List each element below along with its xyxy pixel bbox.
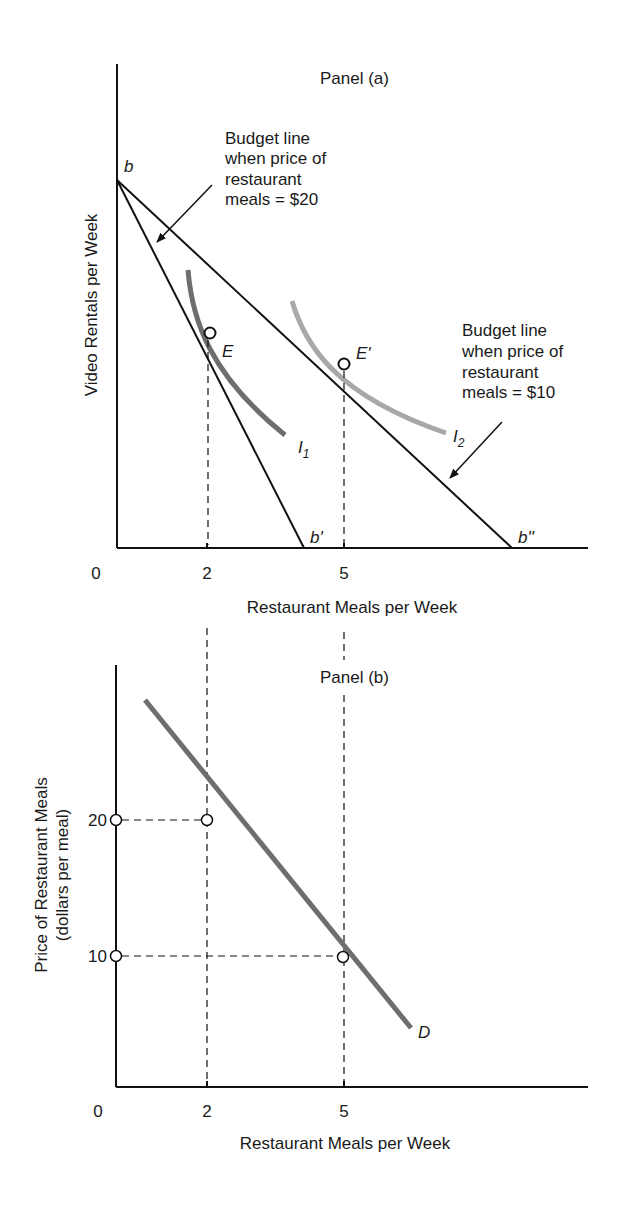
label-e-prime: E' xyxy=(356,344,371,363)
panel-a-y-axis-label: Video Rentals per Week xyxy=(82,213,101,396)
svg-text:meals = $10: meals = $10 xyxy=(462,383,555,402)
svg-text:Budget line: Budget line xyxy=(462,321,547,340)
point-demand-2-20 xyxy=(202,815,213,826)
label-d: D xyxy=(418,1023,430,1042)
svg-text:when price of: when price of xyxy=(224,149,326,168)
panel-b-y-axis-label-line2: (dollars per meal) xyxy=(53,809,72,941)
panel-b-x-axis-label: Restaurant Meals per Week xyxy=(240,1134,451,1153)
svg-text:Budget line: Budget line xyxy=(225,129,310,148)
panel-b: Panel (b) Price of Restaurant Meals (dol… xyxy=(32,628,588,1153)
svg-text:restaurant: restaurant xyxy=(462,363,539,382)
budget-line-10 xyxy=(117,180,512,548)
point-e xyxy=(205,328,216,339)
label-b: b xyxy=(124,157,133,176)
panel-a-x-tick-5-label: 5 xyxy=(339,564,348,583)
indifference-curve-i2 xyxy=(292,301,446,433)
panel-a: Panel (a) Video Rentals per Week 0 2 5 R… xyxy=(82,64,588,617)
arrow-icon xyxy=(450,422,502,478)
panel-b-origin-label: 0 xyxy=(93,1102,102,1121)
panel-a-x-tick-2-label: 2 xyxy=(202,564,211,583)
panel-a-origin-label: 0 xyxy=(91,564,100,583)
indifference-curve-i1 xyxy=(188,270,285,435)
point-e-prime xyxy=(339,359,350,370)
panel-b-title: Panel (b) xyxy=(320,668,389,687)
panel-b-y-tick-20-label: 20 xyxy=(88,811,107,830)
annotation-budget-10: Budget line when price of restaurant mea… xyxy=(450,321,563,478)
panel-b-y-axis-label-line1: Price of Restaurant Meals xyxy=(32,777,51,973)
label-e: E xyxy=(222,342,234,361)
point-demand-5-10 xyxy=(338,952,349,963)
arrow-icon xyxy=(157,185,212,242)
point-axis-10 xyxy=(111,951,122,962)
panel-b-y-tick-10-label: 10 xyxy=(88,947,107,966)
label-b-prime: b' xyxy=(310,528,323,547)
svg-text:restaurant: restaurant xyxy=(225,170,302,189)
demand-curve xyxy=(145,700,411,1028)
budget-line-20 xyxy=(117,180,304,548)
label-i1: I1 xyxy=(298,438,309,461)
svg-text:when price of: when price of xyxy=(461,342,563,361)
panel-a-x-axis-label: Restaurant Meals per Week xyxy=(247,598,458,617)
label-b-double-prime: b'' xyxy=(518,528,535,547)
svg-text:meals = $20: meals = $20 xyxy=(225,190,318,209)
panel-a-title: Panel (a) xyxy=(320,69,389,88)
panel-b-x-tick-5-label: 5 xyxy=(339,1102,348,1121)
figure-canvas: Panel (a) Video Rentals per Week 0 2 5 R… xyxy=(0,0,623,1213)
panel-b-x-tick-2-label: 2 xyxy=(202,1102,211,1121)
point-axis-20 xyxy=(111,815,122,826)
label-i2: I2 xyxy=(453,427,465,450)
annotation-budget-20: Budget line when price of restaurant mea… xyxy=(157,129,326,242)
